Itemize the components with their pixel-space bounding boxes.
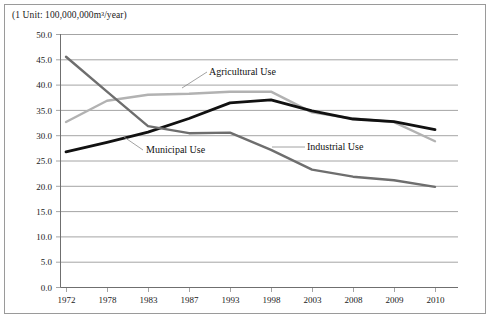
y-tick-label: 45.0 xyxy=(36,55,52,65)
x-tick-label: 1987 xyxy=(181,295,200,305)
series-line-agricultural-use xyxy=(66,92,435,142)
series-label-municipal: Municipal Use xyxy=(146,144,206,155)
y-tick-label: 25.0 xyxy=(36,156,52,166)
x-tick-label: 2003 xyxy=(304,295,323,305)
municipal-leader-line xyxy=(124,137,143,150)
x-axis-tick-labels: 1972197819831987199319982003200820092010 xyxy=(58,295,446,305)
y-tick-label: 5.0 xyxy=(41,257,53,267)
y-tick-label: 20.0 xyxy=(36,182,52,192)
agricultural-leader-line xyxy=(182,72,207,88)
y-tick-label: 10.0 xyxy=(36,232,52,242)
y-tick-label: 35.0 xyxy=(36,106,52,116)
x-tick-label: 2009 xyxy=(386,295,405,305)
y-tick-label: 30.0 xyxy=(36,131,52,141)
x-tick-label: 2010 xyxy=(427,295,446,305)
series-label-industrial: Industrial Use xyxy=(307,141,364,152)
x-tick-label: 1993 xyxy=(222,295,241,305)
y-tick-label: 50.0 xyxy=(36,30,52,40)
x-tick-label: 1998 xyxy=(263,295,282,305)
line-chart: 50.045.040.035.030.025.020.015.010.05.00… xyxy=(0,0,492,320)
x-tick-label: 2008 xyxy=(345,295,364,305)
series-label-agricultural: Agricultural Use xyxy=(209,66,276,77)
y-tick-label: 40.0 xyxy=(36,80,52,90)
y-tick-label: 0.0 xyxy=(41,283,53,293)
x-tick-label: 1972 xyxy=(58,295,76,305)
y-axis-tick-labels: 50.045.040.035.030.025.020.015.010.05.00… xyxy=(36,30,52,293)
x-tick-label: 1978 xyxy=(99,295,118,305)
x-tick-label: 1983 xyxy=(140,295,159,305)
chart-canvas: 50.045.040.035.030.025.020.015.010.05.00… xyxy=(0,0,492,320)
y-tick-label: 15.0 xyxy=(36,207,52,217)
series-line-municipal-use xyxy=(66,100,435,152)
